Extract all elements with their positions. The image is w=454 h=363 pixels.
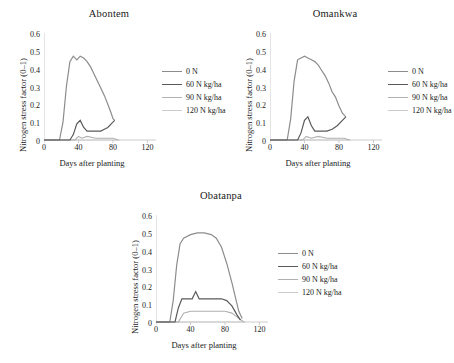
legend-obatanpa: 0 N 60 N kg/ha 90 N kg/ha 120 N kg/ha xyxy=(278,248,342,300)
x-axis-label-obatanpa: Days after planting xyxy=(148,340,260,350)
x-tick-3-obatanpa: 120 xyxy=(252,325,266,334)
legend-item-90n[interactable]: 90 N kg/ha xyxy=(388,92,452,103)
legend-swatch-120n xyxy=(162,110,182,111)
legend-item-60n[interactable]: 60 N kg/ha xyxy=(162,79,226,90)
y-tick-2-obatanpa: 0.2 xyxy=(132,283,152,292)
x-tick-2-abontem: 80 xyxy=(106,143,120,152)
legend-swatch-120n xyxy=(278,292,298,293)
x-tick-0-abontem: 0 xyxy=(37,143,51,152)
x-tick-0-omankwa: 0 xyxy=(263,143,277,152)
chart-title-obatanpa: Obatanpa xyxy=(146,190,296,201)
legend-swatch-90n xyxy=(388,97,408,98)
x-tick-3-abontem: 120 xyxy=(140,143,154,152)
y-tick-5-obatanpa: 0.5 xyxy=(132,230,152,239)
legend-item-0n[interactable]: 0 N xyxy=(388,66,452,77)
plot-area-omankwa: Nitrogen stress factor (0–1) 0 0.1 0.2 0… xyxy=(234,24,446,184)
legend-label-90n: 90 N kg/ha xyxy=(412,93,448,102)
legend-swatch-90n xyxy=(162,97,182,98)
legend-item-90n[interactable]: 90 N kg/ha xyxy=(278,274,342,285)
x-tick-2-obatanpa: 80 xyxy=(218,325,232,334)
legend-swatch-0n xyxy=(278,253,298,254)
legend-label-120n: 120 N kg/ha xyxy=(302,288,342,297)
y-tick-1-obatanpa: 0.1 xyxy=(132,301,152,310)
legend-swatch-120n xyxy=(388,110,408,111)
y-tick-2-omankwa: 0.2 xyxy=(246,101,266,110)
legend-item-120n[interactable]: 120 N kg/ha xyxy=(388,105,452,116)
legend-swatch-0n xyxy=(388,71,408,72)
y-tick-3-obatanpa: 0.3 xyxy=(132,266,152,275)
y-tick-1-omankwa: 0.1 xyxy=(246,119,266,128)
legend-label-120n: 120 N kg/ha xyxy=(186,106,226,115)
x-tick-0-obatanpa: 0 xyxy=(149,325,163,334)
chart-title-abontem: Abontem xyxy=(34,8,184,19)
legend-label-0n: 0 N xyxy=(412,67,424,76)
legend-label-60n: 60 N kg/ha xyxy=(412,80,448,89)
plot-area-obatanpa: Nitrogen stress factor (0–1) 0 0.1 0.2 0… xyxy=(118,206,334,362)
x-tick-1-omankwa: 40 xyxy=(298,143,312,152)
legend-item-0n[interactable]: 0 N xyxy=(278,248,342,259)
legend-label-0n: 0 N xyxy=(302,249,314,258)
y-tick-5-abontem: 0.5 xyxy=(20,48,40,57)
x-tick-3-omankwa: 120 xyxy=(366,143,380,152)
y-tick-5-omankwa: 0.5 xyxy=(246,48,266,57)
legend-label-90n: 90 N kg/ha xyxy=(186,93,222,102)
chart-panel-abontem: Abontem Nitrogen stress factor (0–1) 0 0… xyxy=(6,8,216,184)
legend-label-90n: 90 N kg/ha xyxy=(302,275,338,284)
x-tick-1-abontem: 40 xyxy=(72,143,86,152)
y-tick-4-obatanpa: 0.4 xyxy=(132,248,152,257)
legend-label-120n: 120 N kg/ha xyxy=(412,106,452,115)
plot-area-abontem: Nitrogen stress factor (0–1) 0 0.1 0.2 0… xyxy=(6,24,216,184)
legend-label-60n: 60 N kg/ha xyxy=(186,80,222,89)
legend-item-60n[interactable]: 60 N kg/ha xyxy=(388,79,452,90)
y-tick-1-abontem: 0.1 xyxy=(20,119,40,128)
chart-title-omankwa: Omankwa xyxy=(260,8,410,19)
y-tick-4-abontem: 0.4 xyxy=(20,66,40,75)
chart-panel-omankwa: Omankwa Nitrogen stress factor (0–1) 0 0… xyxy=(234,8,446,184)
legend-label-60n: 60 N kg/ha xyxy=(302,262,338,271)
legend-swatch-60n xyxy=(278,266,298,267)
legend-swatch-60n xyxy=(162,84,182,85)
legend-swatch-0n xyxy=(162,71,182,72)
y-tick-2-abontem: 0.2 xyxy=(20,101,40,110)
y-tick-6-omankwa: 0.6 xyxy=(246,30,266,39)
legend-label-0n: 0 N xyxy=(186,67,198,76)
y-tick-4-omankwa: 0.4 xyxy=(246,66,266,75)
y-tick-6-abontem: 0.6 xyxy=(20,30,40,39)
legend-item-0n[interactable]: 0 N xyxy=(162,66,226,77)
plot-svg-omankwa xyxy=(270,33,382,153)
legend-abontem: 0 N 60 N kg/ha 90 N kg/ha 120 N kg/ha xyxy=(162,66,226,118)
legend-swatch-90n xyxy=(278,279,298,280)
y-tick-3-abontem: 0.3 xyxy=(20,84,40,93)
y-tick-6-obatanpa: 0.6 xyxy=(132,212,152,221)
x-tick-1-obatanpa: 40 xyxy=(184,325,198,334)
legend-omankwa: 0 N 60 N kg/ha 90 N kg/ha 120 N kg/ha xyxy=(388,66,452,118)
y-tick-3-omankwa: 0.3 xyxy=(246,84,266,93)
legend-swatch-60n xyxy=(388,84,408,85)
legend-item-120n[interactable]: 120 N kg/ha xyxy=(278,287,342,298)
x-tick-2-omankwa: 80 xyxy=(332,143,346,152)
chart-panel-obatanpa: Obatanpa Nitrogen stress factor (0–1) 0 … xyxy=(118,190,334,362)
plot-svg-abontem xyxy=(44,33,156,153)
x-axis-label-omankwa: Days after planting xyxy=(262,158,374,168)
x-axis-label-abontem: Days after planting xyxy=(36,158,148,168)
legend-item-60n[interactable]: 60 N kg/ha xyxy=(278,261,342,272)
legend-item-90n[interactable]: 90 N kg/ha xyxy=(162,92,226,103)
legend-item-120n[interactable]: 120 N kg/ha xyxy=(162,105,226,116)
plot-svg-obatanpa xyxy=(156,215,268,335)
